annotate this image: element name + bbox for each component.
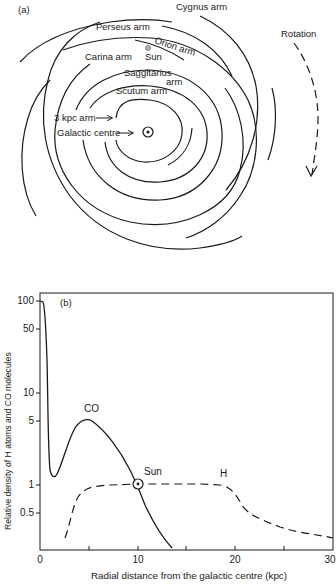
panel-b-density-chart: (b) 100 50 10 5 1 0.5 Relative density o… xyxy=(3,293,336,581)
arm-3kpc-tail xyxy=(168,128,192,165)
sun-label: Sun xyxy=(144,466,162,477)
x-tick-0: 0 xyxy=(37,554,43,565)
label-scutum-arm: Scutum arm xyxy=(116,85,167,96)
label-saggitarius: Saggitarius xyxy=(124,67,172,78)
sun-marker-icon xyxy=(133,479,143,489)
label-perseus-arm: Perseus arm xyxy=(96,21,150,32)
galactic-centre-icon xyxy=(143,127,153,137)
x-tick-10: 10 xyxy=(132,554,144,565)
y-tick-50: 50 xyxy=(23,323,35,334)
figure: (a) xyxy=(0,0,336,585)
rotation-arrow-path xyxy=(294,43,318,175)
arm-3kpc xyxy=(116,99,182,162)
label-3kpc-arm: 3 kpc arm xyxy=(54,112,96,123)
label-rotation: Rotation xyxy=(281,28,316,39)
y-tick-0-5: 0.5 xyxy=(20,507,34,518)
y-axis-label: Relative density of H atoms and CO molec… xyxy=(3,352,13,530)
sun-symbol-icon xyxy=(146,46,151,51)
panel-a-label: (a) xyxy=(18,4,30,15)
label-galactic-centre: Galactic centre xyxy=(57,127,120,138)
arm-outermost-left-lower xyxy=(22,80,50,216)
label-saggitarius-arm: arm xyxy=(166,76,182,87)
y-tick-5: 5 xyxy=(28,415,34,426)
label-cygnus-arm: Cygnus arm xyxy=(176,1,227,12)
label-sun: Sun xyxy=(145,51,162,62)
y-tick-10: 10 xyxy=(23,387,35,398)
rotation-arrowhead-icon xyxy=(306,166,317,176)
co-curve xyxy=(40,301,172,548)
h-curve xyxy=(65,484,333,538)
label-carina-arm: Carina arm xyxy=(85,51,132,62)
panel-b-label: (b) xyxy=(60,297,72,308)
plot-frame xyxy=(40,293,333,550)
x-axis: 0 10 20 30 Radial distance from the gala… xyxy=(37,546,336,581)
h-label: H xyxy=(220,468,227,479)
x-tick-30: 30 xyxy=(324,554,336,565)
y-tick-100: 100 xyxy=(17,295,34,306)
y-tick-1: 1 xyxy=(28,479,34,490)
y-axis: 100 50 10 5 1 0.5 Relative density of H … xyxy=(3,295,40,530)
x-axis-label: Radial distance from the galactic centre… xyxy=(91,570,287,581)
panel-a-spiral-diagram: (a) xyxy=(18,1,318,249)
co-label: CO xyxy=(84,403,99,414)
x-tick-20: 20 xyxy=(229,554,241,565)
arm-outer-right xyxy=(268,88,275,160)
